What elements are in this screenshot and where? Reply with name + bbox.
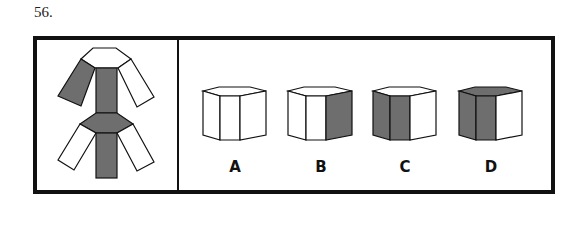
option-c-label[interactable]: C bbox=[390, 158, 420, 176]
option-c-prism[interactable] bbox=[373, 87, 436, 140]
option-a-prism[interactable] bbox=[203, 87, 266, 140]
option-b-label[interactable]: B bbox=[306, 158, 336, 176]
option-a-label[interactable]: A bbox=[220, 158, 250, 176]
net-figure bbox=[58, 48, 154, 178]
option-d-label[interactable]: D bbox=[476, 158, 506, 176]
option-d-prism[interactable] bbox=[459, 87, 522, 140]
option-b-prism[interactable] bbox=[288, 87, 352, 140]
